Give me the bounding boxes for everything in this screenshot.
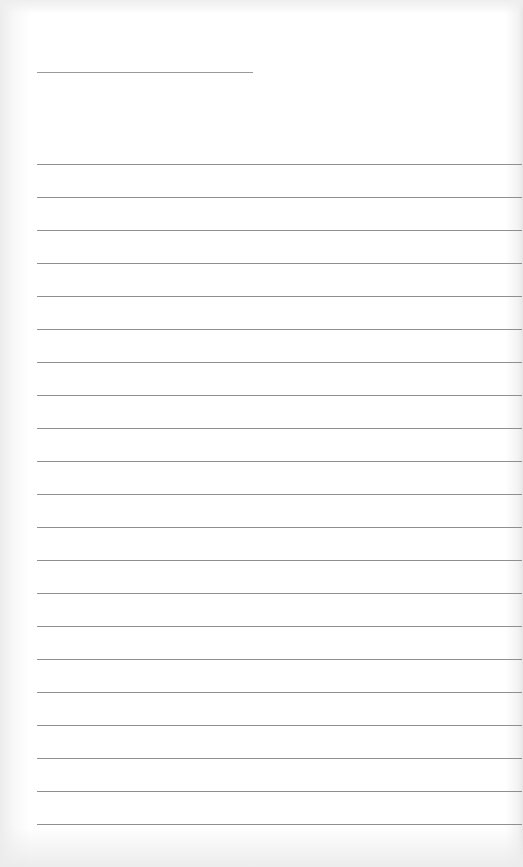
ruled-line: [37, 791, 522, 792]
lined-paper-sheet: [0, 0, 523, 867]
ruled-line: [37, 164, 522, 165]
ruled-line: [37, 428, 522, 429]
ruled-line: [37, 362, 522, 363]
ruled-line: [37, 725, 522, 726]
ruled-line: [37, 197, 522, 198]
ruled-line: [37, 560, 522, 561]
ruled-line: [37, 527, 522, 528]
ruled-line: [37, 395, 522, 396]
ruled-line: [37, 593, 522, 594]
ruled-line: [37, 329, 522, 330]
ruled-line: [37, 626, 522, 627]
ruled-line: [37, 263, 522, 264]
ruled-line: [37, 692, 522, 693]
ruled-line: [37, 824, 522, 825]
ruled-line: [37, 758, 522, 759]
ruled-line: [37, 230, 522, 231]
ruled-line: [37, 659, 522, 660]
ruled-line: [37, 461, 522, 462]
ruled-line: [37, 494, 522, 495]
name-line: [37, 72, 253, 73]
ruled-line: [37, 296, 522, 297]
